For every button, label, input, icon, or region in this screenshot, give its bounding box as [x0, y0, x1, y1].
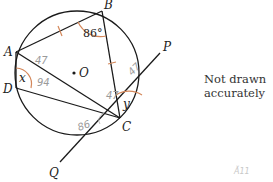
- center-dot: [72, 71, 75, 74]
- handwritten-94: 94: [37, 77, 50, 88]
- angle-arc-y: [116, 91, 142, 95]
- handwritten-bottom-right: Ă11: [233, 165, 250, 176]
- point-label-Q: Q: [49, 166, 59, 180]
- angle-label-x: x: [19, 71, 26, 85]
- line-BC: [102, 11, 120, 118]
- point-label-A: A: [3, 45, 13, 59]
- circle: [15, 11, 139, 135]
- angle-label-y: y: [122, 97, 130, 111]
- handwritten-47-C: 47: [106, 90, 119, 101]
- tangent-PQ: [60, 53, 160, 162]
- point-label-D: D: [2, 82, 13, 96]
- handwritten-47-A: 47: [35, 55, 48, 66]
- not-drawn-accurately-note: Not drawn accurately: [204, 72, 273, 100]
- angle-label-B: 86°: [83, 27, 103, 40]
- point-label-O: O: [79, 66, 89, 80]
- point-label-B: B: [103, 0, 113, 12]
- tick-BC: [108, 62, 116, 64]
- point-label-C: C: [122, 120, 131, 134]
- point-label-P: P: [162, 40, 172, 54]
